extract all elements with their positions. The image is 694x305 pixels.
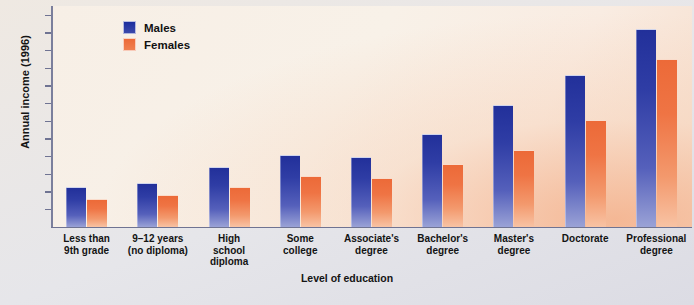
- bar-males: [422, 134, 442, 227]
- bar-group: [636, 29, 677, 226]
- bar-males: [280, 155, 300, 227]
- bar-females: [230, 187, 250, 227]
- x-category-label: Somecollege: [260, 233, 340, 256]
- x-category-label: Highschooldiploma: [189, 233, 269, 268]
- bar-group: [137, 183, 178, 226]
- y-tick-80000: 80,000: [45, 85, 51, 87]
- x-category-label-line: Less than: [47, 233, 127, 245]
- bar-group: [493, 105, 534, 226]
- x-category-label-line: 9–12 years: [118, 233, 198, 245]
- bar-females: [372, 178, 392, 227]
- legend-item-females: Females: [123, 36, 190, 53]
- x-category-label-line: (no diploma): [118, 245, 198, 257]
- y-axis-title: Annual income (1996): [19, 7, 31, 177]
- x-category-label-line: school: [189, 245, 269, 257]
- x-category-label-line: Master's: [474, 233, 554, 245]
- x-category-label-line: 9th grade: [47, 245, 127, 257]
- x-category-label-line: degree: [474, 245, 554, 257]
- legend-label-females: Females: [144, 39, 190, 51]
- bar-males: [351, 157, 371, 227]
- x-category-label-line: degree: [616, 245, 694, 257]
- x-category-label: 9–12 years(no diploma): [118, 233, 198, 256]
- bar-females: [87, 199, 107, 227]
- bar-females: [514, 150, 534, 227]
- y-tick-100000: 100,000: [45, 50, 51, 52]
- x-category-label: Bachelor'sdegree: [403, 233, 483, 256]
- bar-group: [280, 155, 321, 227]
- y-tick-50000: 50,000: [45, 138, 51, 140]
- bar-females: [586, 120, 606, 227]
- bar-males: [66, 187, 86, 227]
- x-category-label: Master'sdegree: [474, 233, 554, 256]
- y-tick-60000: 60,000: [45, 121, 51, 123]
- x-category-label-line: Bachelor's: [403, 233, 483, 245]
- y-tick-10000: 10,000: [45, 209, 51, 211]
- bar-group: [209, 167, 250, 226]
- legend-swatch-females-icon: [123, 38, 136, 51]
- bar-males: [137, 183, 157, 226]
- bar-females: [443, 164, 463, 227]
- bar-group: [422, 134, 463, 227]
- y-tick-20000: 20,000: [45, 191, 51, 193]
- x-category-label-line: Doctorate: [545, 233, 625, 245]
- x-category-label-line: degree: [332, 245, 412, 257]
- legend-label-males: Males: [144, 22, 176, 34]
- x-category-label: Associate'sdegree: [332, 233, 412, 256]
- y-axis-line: [51, 6, 53, 228]
- plot-area: $120,000110,000100,00090,00080,00070,000…: [51, 6, 692, 228]
- x-category-label-line: Associate's: [332, 233, 412, 245]
- y-tick-120000: $120,000: [45, 15, 51, 17]
- x-axis-title: Level of education: [0, 272, 694, 284]
- bar-males: [209, 167, 229, 226]
- bar-group: [565, 75, 606, 226]
- x-category-label-line: college: [260, 245, 340, 257]
- x-category-label: Doctorate: [545, 233, 625, 245]
- y-tick-40000: 40,000: [45, 156, 51, 158]
- bar-group: [351, 157, 392, 227]
- bar-group: [66, 187, 107, 227]
- x-category-label: Less than9th grade: [47, 233, 127, 256]
- bar-males: [636, 29, 656, 226]
- bar-females: [657, 59, 677, 226]
- x-category-label-line: diploma: [189, 256, 269, 268]
- x-category-label-line: Some: [260, 233, 340, 245]
- bar-females: [158, 195, 178, 227]
- y-tick-70000: 70,000: [45, 103, 51, 105]
- x-category-label: Professionaldegree: [616, 233, 694, 256]
- x-axis-line: [51, 227, 692, 229]
- bar-males: [565, 75, 585, 226]
- x-category-label-line: Professional: [616, 233, 694, 245]
- y-tick-90000: 90,000: [45, 68, 51, 70]
- bar-males: [493, 105, 513, 226]
- legend-swatch-males-icon: [123, 21, 136, 34]
- y-tick-110000: 110,000: [45, 32, 51, 34]
- x-category-label-line: High: [189, 233, 269, 245]
- legend-item-males: Males: [123, 19, 190, 36]
- y-tick-30000: 30,000: [45, 174, 51, 176]
- figure-chart-income-by-education: Annual income (1996) $120,000110,000100,…: [0, 0, 694, 305]
- x-category-label-line: degree: [403, 245, 483, 257]
- bar-females: [301, 176, 321, 226]
- legend: Males Females: [123, 19, 190, 53]
